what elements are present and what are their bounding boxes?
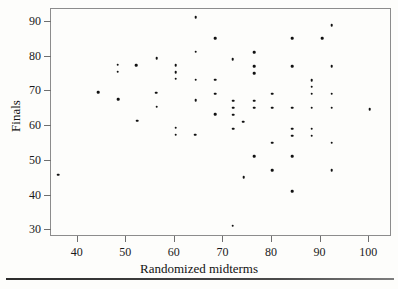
scatter-point (311, 127, 314, 130)
scatter-point (156, 105, 159, 108)
scatter-point (271, 169, 274, 172)
scatter-point (291, 106, 294, 109)
y-tick-label: 80 (11, 50, 41, 62)
x-tick-label: 70 (205, 246, 239, 258)
scatter-point (311, 106, 314, 109)
scatter-point (291, 127, 294, 130)
scatter-point (330, 65, 333, 68)
scatter-point (253, 65, 256, 68)
scatter-point (175, 64, 178, 67)
scatter-point (291, 65, 294, 68)
scatter-point (311, 79, 314, 82)
scatter-point (214, 92, 217, 95)
scatter-point (135, 64, 138, 67)
x-tick-mark (271, 236, 272, 242)
scatter-point (330, 169, 333, 172)
scatter-point (321, 37, 324, 40)
x-tick-mark (320, 236, 321, 242)
scatter-point (136, 119, 139, 122)
scatter-point (194, 16, 197, 19)
scatter-point (232, 113, 235, 116)
y-tick-label: 40 (11, 189, 41, 201)
scatter-point (194, 50, 197, 53)
scatter-plot-figure: 30405060708090 405060708090100 Finals Ra… (0, 0, 398, 289)
plot-data-area (50, 8, 391, 236)
x-tick-label: 90 (303, 246, 337, 258)
scatter-point (253, 72, 256, 75)
y-tick-label: 90 (11, 15, 41, 27)
scatter-point (117, 98, 120, 101)
x-tick-label: 50 (108, 246, 142, 258)
scatter-point (232, 106, 235, 109)
y-tick-label: 50 (11, 154, 41, 166)
scatter-point (232, 127, 235, 130)
scatter-point (194, 99, 197, 102)
scatter-point (271, 141, 274, 144)
scatter-point (57, 174, 60, 177)
x-tick-label: 80 (254, 246, 288, 258)
scatter-point (330, 24, 333, 27)
scatter-point (311, 134, 314, 137)
scatter-point (214, 113, 217, 116)
page-divider-rule (6, 278, 394, 280)
scatter-point (311, 86, 314, 89)
scatter-point (231, 224, 234, 227)
scatter-point (175, 71, 178, 74)
scatter-point (155, 92, 158, 95)
scatter-point (175, 133, 178, 136)
x-tick-label: 100 (351, 246, 385, 258)
scatter-point (175, 78, 178, 81)
y-tick-label: 30 (11, 223, 41, 235)
scatter-point (231, 58, 234, 61)
scatter-point (253, 100, 256, 103)
scatter-point (97, 91, 100, 94)
x-tick-mark (77, 236, 78, 242)
scatter-point (214, 37, 217, 40)
scatter-point (253, 106, 256, 109)
x-tick-mark (368, 236, 369, 242)
x-tick-mark (222, 236, 223, 242)
scatter-point (243, 176, 246, 179)
x-tick-label: 60 (157, 246, 191, 258)
scatter-point (291, 134, 294, 137)
scatter-point (291, 155, 294, 158)
scatter-point (330, 106, 333, 109)
scatter-point (242, 120, 245, 123)
x-axis-title: Randomized midterms (0, 261, 398, 277)
scatter-point (291, 190, 294, 193)
x-tick-mark (174, 236, 175, 242)
scatter-point (116, 63, 119, 66)
scatter-point (194, 78, 197, 81)
scatter-point (291, 37, 294, 40)
scatter-point (271, 93, 274, 96)
scatter-point (368, 108, 371, 111)
scatter-point (116, 70, 119, 73)
scatter-point (175, 126, 178, 129)
x-tick-mark (125, 236, 126, 242)
y-axis-title: Finals (8, 86, 24, 146)
scatter-point (330, 93, 333, 96)
scatter-point (311, 93, 314, 96)
scatter-point (232, 100, 235, 103)
scatter-point (253, 155, 256, 158)
x-tick-label: 40 (60, 246, 94, 258)
scatter-point (330, 141, 333, 144)
scatter-point (253, 51, 256, 54)
scatter-point (214, 78, 217, 81)
scatter-point (194, 133, 197, 136)
scatter-point (271, 106, 274, 109)
scatter-point (156, 57, 159, 60)
